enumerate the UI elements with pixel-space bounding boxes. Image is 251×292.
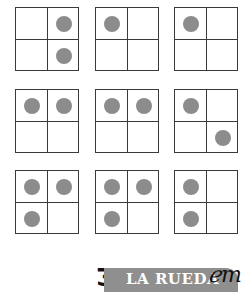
brand-text: LA RUEDA bbox=[126, 270, 219, 288]
dot-top-left bbox=[24, 98, 40, 114]
dot-bottom-left bbox=[183, 211, 199, 227]
dot-top-left bbox=[24, 179, 40, 195]
grid-divider-horizontal bbox=[96, 121, 158, 122]
grid-divider-horizontal bbox=[16, 121, 78, 122]
dot-top-left bbox=[104, 98, 120, 114]
grid-divider-horizontal bbox=[16, 202, 78, 203]
dot-grid-3-2 bbox=[95, 170, 159, 234]
dot-bottom-right bbox=[56, 48, 72, 64]
dot-grid-2-2 bbox=[95, 89, 159, 153]
dot-grid-3-1 bbox=[15, 170, 79, 234]
dot-top-left bbox=[183, 98, 199, 114]
grid-divider-horizontal bbox=[175, 39, 237, 40]
dot-top-right bbox=[136, 98, 152, 114]
grid-divider-horizontal bbox=[16, 39, 78, 40]
dot-top-left bbox=[183, 179, 199, 195]
dot-grid-2-3 bbox=[174, 89, 238, 153]
dot-top-left bbox=[104, 179, 120, 195]
dot-grid-2-1 bbox=[15, 89, 79, 153]
grid-divider-horizontal bbox=[175, 121, 237, 122]
dot-grid-1-2 bbox=[95, 7, 159, 71]
dot-bottom-left bbox=[24, 211, 40, 227]
grid-divider-horizontal bbox=[96, 202, 158, 203]
dot-top-right bbox=[56, 179, 72, 195]
dot-bottom-left bbox=[104, 211, 120, 227]
dot-top-left bbox=[183, 16, 199, 32]
dot-top-right bbox=[136, 179, 152, 195]
dot-grid-1-3 bbox=[174, 7, 238, 71]
dot-grid-1-1 bbox=[15, 7, 79, 71]
grid-divider-horizontal bbox=[96, 39, 158, 40]
dot-top-right bbox=[56, 98, 72, 114]
brand-right-squiggle-icon: ℯm bbox=[208, 262, 242, 287]
dot-top-right bbox=[56, 16, 72, 32]
grid-divider-horizontal bbox=[175, 202, 237, 203]
dot-bottom-right bbox=[215, 130, 231, 146]
dot-grid-3-3 bbox=[174, 170, 238, 234]
dot-top-left bbox=[104, 16, 120, 32]
